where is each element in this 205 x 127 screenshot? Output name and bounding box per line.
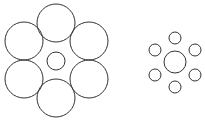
- surround-circle: [169, 81, 181, 93]
- surround-circle: [189, 69, 201, 81]
- surround-circle: [37, 79, 75, 117]
- center-circle: [47, 52, 65, 70]
- center-circle: [164, 51, 186, 73]
- surround-circle: [149, 44, 161, 56]
- left-circle-group-large-surround: [5, 4, 108, 117]
- right-circle-group-small-surround: [149, 32, 201, 93]
- surround-circle: [70, 22, 108, 60]
- surround-circle: [70, 60, 108, 98]
- surround-circle: [5, 60, 43, 98]
- surround-circle: [149, 69, 161, 81]
- surround-circle: [169, 32, 181, 44]
- surround-circle: [189, 44, 201, 56]
- ebbinghaus-illusion-diagram: [0, 0, 205, 127]
- surround-circle: [5, 22, 43, 60]
